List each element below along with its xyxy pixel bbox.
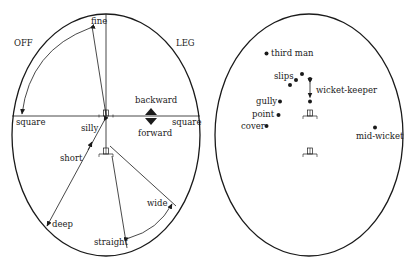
fine-line — [92, 26, 106, 115]
wide-label: wide — [147, 198, 167, 208]
third-man-label: third man — [271, 48, 314, 58]
forward-triangle-icon — [145, 118, 157, 125]
bowler-stumps-icon — [99, 148, 113, 157]
square-left-label: square — [16, 117, 45, 127]
short-tick-arrow — [88, 142, 92, 150]
leg-label: LEG — [176, 38, 195, 48]
off-label: OFF — [14, 38, 33, 48]
point-label: point — [252, 109, 275, 119]
fielder-slip-2 — [294, 78, 298, 82]
backward-label: backward — [135, 95, 178, 105]
straight-label: straight — [94, 237, 129, 247]
backward-triangle-icon — [145, 108, 157, 115]
fielder-slip-3 — [300, 72, 304, 76]
fielder-third-man — [265, 52, 269, 56]
short-label: short — [60, 153, 83, 163]
slips-label: slips — [274, 71, 294, 81]
fielder-point — [277, 113, 281, 117]
straight-wide-arc-arrow — [129, 204, 172, 238]
fielder-slip-1 — [288, 83, 292, 87]
deep-label: deep — [52, 219, 74, 229]
cricket-field-diagram: OFF LEG fine square square backward forw… — [0, 0, 414, 268]
gully-label: gully — [256, 96, 277, 106]
fielder-mid-wicket — [373, 126, 377, 130]
forward-label: forward — [138, 128, 173, 138]
fine-label: fine — [91, 16, 107, 26]
wicket-keeper-label: wicket-keeper — [316, 85, 378, 95]
cover-label: cover — [241, 121, 266, 131]
batsman-stumps-icon — [303, 110, 317, 119]
left-field-terminology: OFF LEG fine square square backward forw… — [12, 14, 201, 256]
straight-line — [112, 156, 127, 248]
fielder-wicket-keeper-up — [308, 100, 312, 104]
fielder-cover — [265, 124, 269, 128]
square-right-label: square — [172, 117, 201, 127]
silly-label: silly — [81, 123, 99, 133]
wide-line — [110, 146, 176, 206]
mid-wicket-label: mid-wicket — [356, 131, 404, 141]
fielder-gully — [278, 100, 282, 104]
bowler-stumps-icon — [303, 148, 317, 157]
depth-line — [47, 121, 104, 226]
right-field-positions: third man slips wicket-keeper gully poin… — [215, 14, 404, 256]
fielder-wicket-keeper-back — [308, 77, 312, 81]
